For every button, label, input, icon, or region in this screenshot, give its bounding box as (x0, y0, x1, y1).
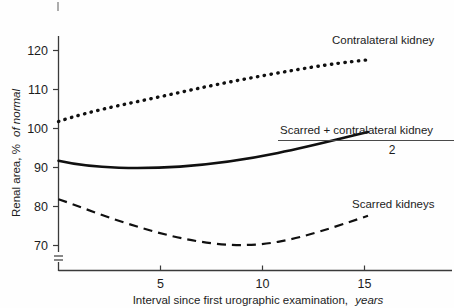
y-tick-label-80: 80 (34, 200, 48, 214)
x-tick-label-5: 5 (157, 277, 164, 291)
y-axis-ticks (53, 51, 59, 246)
y-tick-label-70: 70 (34, 239, 48, 253)
svg-text:Renal area, % of norma: Renal area, % of normal (10, 89, 22, 217)
series-curve-contralateral (59, 60, 371, 122)
x-tick-label-10: 10 (256, 277, 270, 291)
series-curve-scarred (59, 199, 369, 245)
y-axis-title: Renal area, % of normal (10, 89, 22, 217)
x-axis-title-plain: Interval since first urographic examinat… (133, 294, 348, 306)
y-axis-title-italic: of normal (10, 89, 22, 137)
y-tick-label-110: 110 (28, 83, 48, 97)
y-axis-title-plain: Renal area, % (10, 144, 22, 217)
x-axis-title-italic: years (354, 294, 383, 306)
x-axis-title: Interval since first urographic examinat… (133, 294, 384, 306)
series-label-combined-denominator: 2 (389, 143, 396, 157)
series-curve-combined (59, 132, 369, 168)
series-label-scarred: Scarred kidneys (352, 198, 435, 210)
y-tick-label-90: 90 (34, 161, 48, 175)
y-tick-label-120: 120 (27, 44, 48, 58)
renal-area-line-chart: 120 110 100 90 80 70 5 10 15 Renal area,… (0, 0, 454, 308)
series-label-combined-numerator: Scarred + contralateral kidney (280, 124, 433, 136)
series-label-contralateral: Contralateral kidney (332, 34, 435, 46)
chart-page: 120 110 100 90 80 70 5 10 15 Renal area,… (0, 0, 454, 308)
x-tick-label-15: 15 (358, 277, 372, 291)
x-axis-ticks (161, 266, 365, 271)
y-tick-label-100: 100 (27, 122, 48, 136)
